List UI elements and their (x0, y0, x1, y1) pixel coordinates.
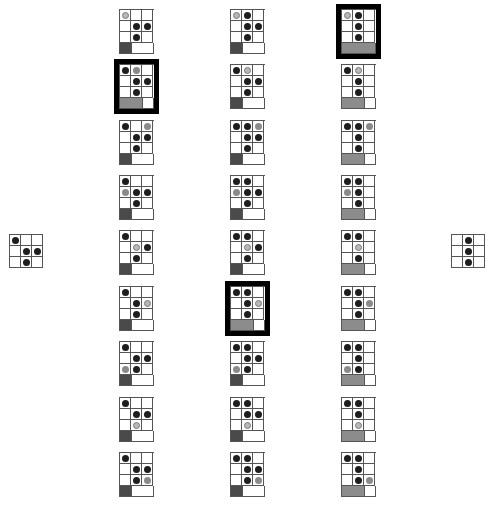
board-cell (120, 76, 131, 87)
board-cell (342, 176, 353, 187)
board-cell (231, 187, 242, 198)
state-board-c1-r9 (119, 452, 154, 497)
black-stone-icon (12, 237, 19, 244)
board-cell (231, 87, 242, 98)
black-stone-icon (133, 366, 140, 373)
board-cell (364, 176, 375, 187)
board-cell (342, 287, 353, 298)
black-stone-icon (244, 12, 251, 19)
black-stone-icon (344, 233, 351, 240)
progress-bar (230, 154, 265, 165)
board-cell (353, 231, 364, 242)
board-cell (242, 21, 253, 32)
black-stone-icon (355, 400, 362, 407)
board-cell (342, 364, 353, 375)
board-cell (364, 398, 375, 409)
board-cell (463, 257, 474, 268)
black-stone-icon (122, 67, 129, 74)
board-cell (253, 464, 264, 475)
board-cell (474, 235, 485, 246)
state-board-c1-r4 (119, 175, 154, 220)
board-grid (230, 64, 265, 98)
board-cell (242, 253, 253, 264)
progress-bar (230, 43, 265, 54)
board-cell (342, 420, 353, 431)
black-stone-icon (355, 300, 362, 307)
board-cell (231, 475, 242, 486)
board-cell (142, 65, 153, 76)
ring-stone-icon (344, 12, 351, 19)
black-stone-icon (355, 189, 362, 196)
board-cell (231, 231, 242, 242)
board-cell (142, 87, 153, 98)
black-stone-icon (244, 411, 251, 418)
black-stone-icon (23, 248, 30, 255)
board-grid (341, 175, 376, 209)
progress-bar (230, 431, 265, 442)
board-cell (253, 87, 264, 98)
board-cell (120, 176, 131, 187)
board-cell (231, 464, 242, 475)
board-cell (231, 176, 242, 187)
board-cell (242, 132, 253, 143)
board-cell (10, 257, 21, 268)
board-cell (353, 10, 364, 21)
board-cell (253, 121, 264, 132)
state-board-c1-r8 (119, 397, 154, 442)
board-cell (120, 253, 131, 264)
board-cell (242, 464, 253, 475)
board-cell (342, 32, 353, 43)
board-cell (342, 464, 353, 475)
black-stone-icon (355, 311, 362, 318)
board-cell (353, 298, 364, 309)
board-cell (242, 298, 253, 309)
state-board-c2-r7 (230, 341, 265, 386)
board-cell (231, 420, 242, 431)
board-cell (342, 453, 353, 464)
board-cell (353, 21, 364, 32)
board-cell (353, 342, 364, 353)
black-stone-icon (233, 233, 240, 240)
board-cell (253, 176, 264, 187)
board-cell (142, 353, 153, 364)
board-cell (364, 187, 375, 198)
board-cell (364, 65, 375, 76)
board-cell (364, 198, 375, 209)
black-stone-icon (255, 189, 262, 196)
black-stone-icon (244, 233, 251, 240)
black-stone-icon (355, 145, 362, 152)
board-cell (131, 176, 142, 187)
board-grid (341, 397, 376, 431)
board-grid (230, 452, 265, 486)
board-cell (120, 309, 131, 320)
board-cell (342, 353, 353, 364)
black-stone-icon (355, 178, 362, 185)
black-stone-icon (465, 259, 472, 266)
board-cell (253, 21, 264, 32)
gray-stone-icon (122, 189, 129, 196)
goal-board (451, 234, 485, 268)
state-board-c3-r7 (341, 341, 376, 386)
board-cell (142, 176, 153, 187)
black-stone-icon (122, 233, 129, 240)
board-cell (242, 242, 253, 253)
board-cell (242, 353, 253, 364)
board-cell (353, 65, 364, 76)
board-grid (230, 341, 265, 375)
board-cell (342, 87, 353, 98)
board-cell (242, 76, 253, 87)
board-cell (242, 32, 253, 43)
board-cell (342, 21, 353, 32)
board-cell (131, 65, 142, 76)
black-stone-icon (144, 189, 151, 196)
board-cell (131, 398, 142, 409)
board-cell (120, 65, 131, 76)
state-board-c2-r8 (230, 397, 265, 442)
black-stone-icon (255, 244, 262, 251)
board-cell (10, 235, 21, 246)
board-cell (231, 342, 242, 353)
black-stone-icon (133, 477, 140, 484)
board-cell (474, 257, 485, 268)
board-cell (231, 21, 242, 32)
board-cell (253, 420, 264, 431)
